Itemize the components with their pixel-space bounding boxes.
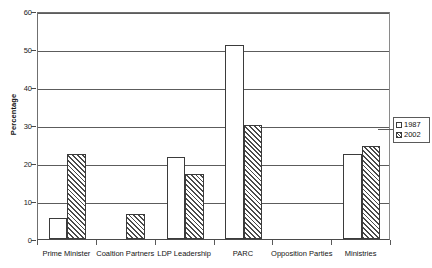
x-axis-label-parc: PARC: [233, 249, 253, 258]
y-tick-label: 20: [4, 160, 32, 169]
x-axis-label-prime-minister: Prime Minister: [42, 249, 90, 258]
bar-2002-ministries: [362, 146, 381, 239]
bar-1987-ldp-leadership: [167, 157, 186, 239]
legend-item-2002[interactable]: 2002: [396, 130, 428, 140]
y-tick-mark: [31, 12, 36, 13]
y-tick-mark: [31, 126, 36, 127]
legend-item-1987[interactable]: 1987: [396, 120, 428, 130]
plot-area: [37, 12, 390, 240]
empty-box-swatch: [396, 122, 402, 128]
y-tick-mark: [31, 88, 36, 89]
bar-1987-parc: [225, 45, 244, 239]
bar-chart: Percentage 0102030405060 1987 2002 Prime…: [0, 0, 432, 268]
y-tick-label: 60: [4, 8, 32, 17]
chart-legend: 1987 2002: [393, 117, 430, 143]
y-tick-mark: [31, 240, 36, 241]
y-tick-label: 50: [4, 46, 32, 55]
bar-1987-prime-minister: [49, 218, 68, 239]
bars-layer: [38, 13, 389, 239]
y-tick-label: 10: [4, 198, 32, 207]
hatched-box-swatch: [396, 132, 402, 138]
y-tick-mark: [31, 50, 36, 51]
x-tick-mark: [155, 240, 156, 245]
x-tick-mark: [37, 240, 38, 245]
x-tick-mark: [331, 240, 332, 245]
x-axis-label-ministries: Ministries: [345, 249, 377, 258]
y-tick-mark: [31, 202, 36, 203]
y-tick-label: 0: [4, 236, 32, 245]
bar-2002-coaltion-partners: [126, 214, 145, 239]
x-axis-label-coaltion-partners: Coaltion Partners: [96, 249, 154, 258]
legend-label-2002: 2002: [404, 130, 421, 139]
x-tick-mark: [390, 240, 391, 245]
bar-2002-ldp-leadership: [185, 174, 204, 239]
x-tick-mark: [272, 240, 273, 245]
x-tick-mark: [214, 240, 215, 245]
y-tick-mark: [31, 164, 36, 165]
bar-1987-ministries: [343, 154, 362, 240]
x-axis-label-opposition-parties: Opposition Parties: [271, 249, 332, 258]
y-axis-ticks: 0102030405060: [0, 12, 32, 240]
x-axis-label-ldp-leadership: LDP Leadership: [157, 249, 211, 258]
legend-label-1987: 1987: [404, 120, 421, 129]
y-tick-label: 30: [4, 122, 32, 131]
y-tick-label: 40: [4, 84, 32, 93]
bar-2002-prime-minister: [67, 154, 86, 240]
x-tick-mark: [96, 240, 97, 245]
bar-2002-parc: [244, 125, 263, 239]
